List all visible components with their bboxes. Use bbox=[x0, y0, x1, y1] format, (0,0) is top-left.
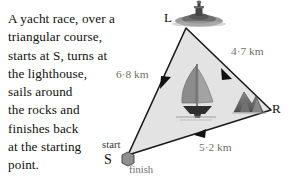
finish-annotation: finish bbox=[129, 164, 153, 175]
vertex-label-start: S bbox=[104, 152, 112, 168]
distance-label-lighthouse-rocks: 4·7 km bbox=[231, 45, 264, 57]
distance-label-start-lighthouse: 6·8 km bbox=[116, 68, 149, 80]
distance-label-rocks-start: 5·2 km bbox=[199, 141, 232, 153]
start-annotation: start bbox=[102, 138, 121, 150]
lighthouse-icon bbox=[172, 0, 226, 27]
race-course-diagram bbox=[0, 0, 288, 185]
worksheet-figure: A yacht race, over a triangular course, … bbox=[0, 0, 288, 185]
vertex-label-lighthouse: L bbox=[164, 10, 172, 26]
vertex-label-rocks: R bbox=[272, 101, 281, 117]
